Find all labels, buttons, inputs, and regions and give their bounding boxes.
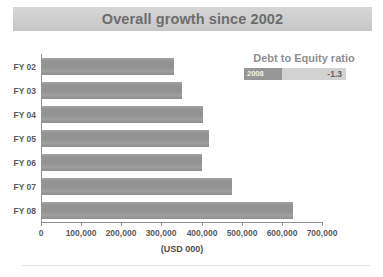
x-tick-mark <box>282 222 283 226</box>
y-label-fy-08: FY 08 <box>2 206 36 216</box>
chart-figure: Overall growth since 2002 FY 02FY 03FY 0… <box>0 0 383 277</box>
bar-fy-08 <box>41 202 293 219</box>
x-tick-label: 300,000 <box>146 228 177 238</box>
x-tick-mark <box>202 222 203 226</box>
y-label-fy-07: FY 07 <box>2 182 36 192</box>
x-tick-label: 100,000 <box>66 228 97 238</box>
x-axis-line <box>41 222 323 223</box>
x-tick-mark <box>322 222 323 226</box>
x-tick-label: 600,000 <box>267 228 298 238</box>
x-tick-label: 700,000 <box>307 228 338 238</box>
callout-value-label: -1.3 <box>327 68 342 80</box>
x-tick-label: 200,000 <box>106 228 137 238</box>
y-label-fy-04: FY 04 <box>2 110 36 120</box>
y-axis-labels: FY 02FY 03FY 04FY 05FY 06FY 07FY 08 <box>0 54 36 222</box>
chart-title-band: Overall growth since 2002 <box>13 7 372 31</box>
x-tick-label: 0 <box>39 228 44 238</box>
y-label-fy-02: FY 02 <box>2 62 36 72</box>
x-tick-mark <box>41 222 42 226</box>
callout-value-cell: -1.3 <box>282 68 346 80</box>
x-tick-mark <box>121 222 122 226</box>
y-label-fy-03: FY 03 <box>2 86 36 96</box>
x-tick-mark <box>242 222 243 226</box>
x-tick-mark <box>161 222 162 226</box>
x-tick-mark <box>81 222 82 226</box>
y-label-fy-06: FY 06 <box>2 158 36 168</box>
callout-year-cell: 2008 <box>244 68 282 80</box>
callout-year-label: 2008 <box>247 68 264 80</box>
bar-fy-06 <box>41 154 202 171</box>
callout-title: Debt to Equity ratio <box>244 52 364 64</box>
bar-fy-03 <box>41 82 182 99</box>
y-label-fy-05: FY 05 <box>2 134 36 144</box>
callout-row: 2008 -1.3 <box>244 68 346 80</box>
bar-fy-07 <box>41 178 232 195</box>
bottom-divider <box>22 265 370 266</box>
bar-fy-02 <box>41 58 174 75</box>
x-tick-label: 400,000 <box>187 228 218 238</box>
x-tick-label: 500,000 <box>227 228 258 238</box>
page-title: Overall growth since 2002 <box>13 7 372 31</box>
x-axis-title: (USD 000) <box>41 244 323 254</box>
bar-fy-04 <box>41 106 203 123</box>
bar-fy-05 <box>41 130 209 147</box>
